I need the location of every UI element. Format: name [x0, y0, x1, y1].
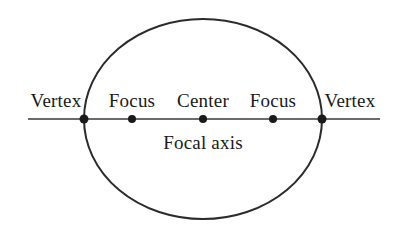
- right-vertex-point: [318, 115, 327, 124]
- left-focus-point: [128, 115, 136, 123]
- left-vertex-point: [80, 115, 89, 124]
- diagram-canvas: [0, 0, 404, 229]
- right-focus-label: Focus: [250, 91, 296, 110]
- right-vertex-label: Vertex: [325, 91, 376, 110]
- focal-axis-label: Focal axis: [163, 133, 243, 152]
- left-vertex-label: Vertex: [31, 91, 82, 110]
- center-point: [199, 115, 207, 123]
- ellipse-diagram: Vertex Focus Center Focus Vertex Focal a…: [0, 0, 404, 229]
- left-focus-label: Focus: [109, 91, 155, 110]
- center-label: Center: [177, 91, 229, 110]
- right-focus-point: [269, 115, 277, 123]
